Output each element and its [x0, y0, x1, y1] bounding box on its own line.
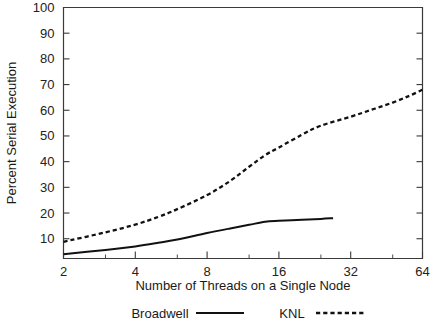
y-axis-title: Percent Serial Execution [4, 62, 19, 204]
y-tick-label: 70 [40, 77, 54, 92]
legend-label-broadwell: Broadwell [131, 306, 188, 321]
x-axis-ticks: 248163264 [60, 252, 430, 279]
y-axis-ticks: 102030405060708090100 [33, 0, 423, 246]
x-tick-label: 8 [203, 264, 210, 279]
x-tick-label: 2 [60, 264, 67, 279]
x-axis-title: Number of Threads on a Single Node [135, 278, 350, 293]
chart-svg: 102030405060708090100 248163264 Percent … [0, 0, 438, 323]
legend-label-knl: KNL [279, 306, 304, 321]
y-tick-label: 10 [40, 231, 54, 246]
plot-frame [64, 8, 423, 259]
x-tick-label: 64 [415, 264, 429, 279]
x-tick-label: 32 [343, 264, 357, 279]
chart-legend: BroadwellKNL [131, 306, 364, 321]
y-tick-label: 100 [33, 0, 55, 15]
axis-frame [64, 8, 423, 259]
series-line-broadwell [64, 218, 334, 254]
y-tick-label: 80 [40, 51, 54, 66]
x-tick-label: 16 [272, 264, 286, 279]
y-tick-label: 30 [40, 180, 54, 195]
chart-figure: 102030405060708090100 248163264 Percent … [0, 0, 438, 323]
x-tick-label: 4 [132, 264, 139, 279]
data-series [64, 90, 423, 254]
y-tick-label: 20 [40, 206, 54, 221]
y-tick-label: 40 [40, 154, 54, 169]
series-line-knl [64, 90, 423, 242]
y-tick-label: 50 [40, 128, 54, 143]
y-tick-label: 90 [40, 26, 54, 41]
y-tick-label: 60 [40, 103, 54, 118]
